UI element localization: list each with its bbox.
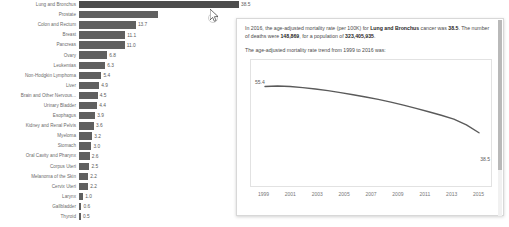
bar-row[interactable]: Larynx1.0 [0, 192, 245, 202]
bar-value-label: 5.4 [103, 72, 110, 79]
bar-value-label: 6.3 [107, 62, 114, 69]
bar-value-label: 3.6 [96, 122, 103, 129]
bar-track: 3.2 [79, 131, 245, 141]
year-tick-label: 2003 [304, 189, 331, 201]
bar-row[interactable]: Leukemias6.3 [0, 61, 245, 71]
bar-category-label: Stomach [0, 141, 79, 151]
bar-fill[interactable] [79, 92, 98, 99]
bar-row[interactable]: Thyroid0.5 [0, 212, 245, 222]
bar-value-label: 1.0 [85, 193, 92, 200]
bar-row[interactable]: Melanoma of the Skin2.2 [0, 172, 245, 182]
bar-track: 3.9 [79, 111, 245, 121]
bar-track: 4.4 [79, 101, 245, 111]
bar-fill[interactable] [79, 41, 125, 48]
bar-fill[interactable] [79, 112, 95, 119]
bar-track: 2.2 [79, 182, 245, 192]
bar-category-label: Corpus Uteri [0, 162, 79, 172]
year-tick-label: 2001 [277, 189, 304, 201]
bar-value-label: 3.9 [97, 112, 104, 119]
bar-track: 38.5 [79, 0, 245, 10]
bar-value-label: 4.4 [99, 102, 106, 109]
bar-track: 4.9 [79, 81, 245, 91]
bar-fill[interactable] [79, 21, 136, 28]
bar-fill[interactable] [79, 152, 90, 159]
bar-category-label: Myeloma [0, 131, 79, 141]
bar-row[interactable]: Lung and Bronchus38.5 [0, 0, 245, 10]
tooltip-text-part-1: In 2016, the age-adjusted mortality rate… [245, 25, 370, 31]
mortality-bar-chart: Lung and Bronchus38.5ProstateColon and R… [0, 0, 245, 227]
tooltip-scrollbar[interactable] [498, 20, 502, 216]
bar-row[interactable]: Cervix Uteri2.2 [0, 182, 245, 192]
bar-row[interactable]: Myeloma3.2 [0, 131, 245, 141]
bar-fill[interactable] [79, 122, 94, 129]
bar-row[interactable]: Stomach3.0 [0, 141, 245, 151]
bar-fill[interactable] [79, 193, 83, 200]
bar-track: 3.6 [79, 121, 245, 131]
trend-start-value-label: 55.4 [255, 79, 265, 85]
bar-category-label: Ovary [0, 51, 79, 61]
tooltip-text-part-2: cancer was [419, 25, 448, 31]
bar-value-label: 13.7 [138, 21, 147, 28]
bar-fill[interactable] [79, 62, 105, 69]
bar-chart-rows: Lung and Bronchus38.5ProstateColon and R… [0, 0, 245, 222]
year-tick-label: 2015 [465, 189, 492, 201]
bar-category-label: Non-Hodgkin Lymphoma [0, 71, 79, 81]
bar-fill[interactable] [79, 51, 107, 58]
bar-fill[interactable] [79, 173, 88, 180]
bar-row[interactable]: Brain and Other Nervous...4.5 [0, 91, 245, 101]
bar-fill[interactable] [79, 163, 89, 170]
bar-value-label: 2.6 [92, 153, 99, 160]
bar-row[interactable]: Kidney and Renal Pelvis3.6 [0, 121, 245, 131]
mouse-cursor-icon [210, 9, 219, 22]
tooltip-text-part-4: , for a population of [299, 33, 345, 39]
bar-category-label: Cervix Uteri [0, 182, 79, 192]
bar-row[interactable]: Liver4.9 [0, 81, 245, 91]
bar-value-label: 0.6 [83, 203, 90, 210]
bar-track: 6.8 [79, 50, 245, 60]
bar-row[interactable]: Pancreas11.0 [0, 40, 245, 50]
bar-track: 3.0 [79, 141, 245, 151]
bar-track: 5.4 [79, 71, 245, 81]
bar-row[interactable]: Gallbladder0.6 [0, 202, 245, 212]
bar-fill[interactable] [79, 102, 97, 109]
bar-row[interactable]: Breast11.1 [0, 30, 245, 40]
trend-line-path [251, 60, 491, 186]
year-tick-label: 2009 [384, 189, 411, 201]
bar-value-label: 4.5 [100, 92, 107, 99]
bar-category-label: Esophagus [0, 111, 79, 121]
bar-category-label: Colon and Rectum [0, 20, 79, 30]
bar-fill[interactable] [79, 142, 91, 149]
bar-row[interactable]: Urinary Bladder4.4 [0, 101, 245, 111]
bar-fill[interactable] [79, 132, 92, 139]
bar-row[interactable]: Corpus Uteri2.5 [0, 162, 245, 172]
bar-fill[interactable] [79, 72, 101, 79]
bar-row[interactable]: Esophagus3.9 [0, 111, 245, 121]
bar-fill[interactable] [79, 82, 99, 89]
bar-row[interactable]: Ovary6.8 [0, 50, 245, 60]
mortality-trend-line-chart: 55.4 38.5 [250, 59, 492, 187]
bar-row[interactable]: Non-Hodgkin Lymphoma5.4 [0, 71, 245, 81]
trend-x-axis-year-labels: 199920012003200520072009201120132015 [250, 189, 492, 201]
bar-fill[interactable] [79, 183, 88, 190]
bar-category-label: Thyroid [0, 212, 79, 222]
year-tick-label: 1999 [250, 189, 277, 201]
bar-value-label: 3.0 [93, 143, 100, 150]
bar-category-label: Kidney and Renal Pelvis [0, 121, 79, 131]
bar-fill[interactable] [79, 31, 125, 38]
bar-track: 2.2 [79, 172, 245, 182]
bar-track: 2.6 [79, 151, 245, 161]
bar-fill[interactable] [79, 213, 81, 220]
bar-category-label: Prostate [0, 10, 79, 20]
tooltip-death-count: 148,869 [280, 33, 299, 39]
bar-track: 0.6 [79, 202, 245, 212]
bar-row[interactable]: Oral Cavity and Pharynx2.6 [0, 151, 245, 161]
tooltip-population: 323,405,935 [345, 33, 374, 39]
bar-category-label: Melanoma of the Skin [0, 172, 79, 182]
bar-value-label: 2.2 [90, 183, 97, 190]
bar-fill[interactable] [79, 11, 158, 18]
bar-row[interactable]: Colon and Rectum13.7 [0, 20, 245, 30]
year-tick-label: 2013 [438, 189, 465, 201]
bar-fill[interactable] [79, 1, 239, 8]
bar-value-label: 11.1 [127, 32, 136, 39]
bar-fill[interactable] [79, 203, 81, 210]
